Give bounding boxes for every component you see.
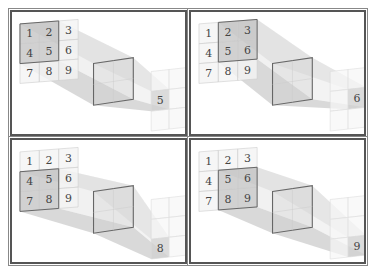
input-cell-value: 7 [26,195,33,208]
input-cell-value: 8 [46,65,53,78]
input-grid: 123456789 [20,19,78,83]
convolution-figure: 1234567898 [12,140,185,262]
output-cell-value: 6 [354,92,361,105]
input-cell-value: 7 [26,67,33,80]
input-cell-value: 2 [225,26,232,39]
input-cell-value: 8 [225,65,232,78]
input-cell-value: 9 [65,192,72,205]
input-cell-value: 5 [46,45,53,58]
panel-top-right: 1234567896 [189,10,366,136]
input-cell-value: 1 [205,27,212,40]
convolution-figure: 1234567899 [191,140,364,262]
output-cell-value: 5 [157,94,164,107]
input-cell-value: 6 [65,44,72,57]
input-cell-value: 3 [65,152,72,165]
output-grid: 6 [330,68,364,131]
input-cell-value: 2 [225,154,232,167]
diagram-grid: 1234567895 1234567896 1234567898 1234567… [10,10,366,264]
input-cell-value: 1 [26,155,33,168]
input-cell-value: 3 [244,24,251,37]
input-cell-value: 3 [244,152,251,165]
input-grid: 123456789 [199,19,257,83]
input-cell-value: 9 [65,64,72,77]
input-grid: 123456789 [199,147,257,211]
input-cell-value: 4 [26,47,33,60]
input-cell-value: 1 [26,27,33,40]
panel-top-left: 1234567895 [10,10,187,136]
input-cell-value: 7 [205,195,212,208]
output-grid: 8 [151,196,185,259]
input-cell-value: 1 [205,155,212,168]
output-grid: 5 [151,68,185,131]
input-cell-value: 9 [244,64,251,77]
panel-bottom-left: 1234567898 [10,138,187,264]
input-cell-value: 3 [65,24,72,37]
input-cell-value: 5 [46,173,53,186]
input-cell-value: 4 [205,175,212,188]
output-grid: 9 [330,196,364,259]
input-cell-value: 2 [46,154,53,167]
input-cell-value: 9 [244,192,251,205]
output-cell-value: 8 [157,242,164,255]
output-cell-value: 9 [354,240,361,253]
input-cell-value: 4 [205,47,212,60]
input-grid: 123456789 [20,147,78,211]
input-cell-value: 4 [26,175,33,188]
input-cell-value: 5 [225,45,232,58]
input-cell-value: 8 [225,193,232,206]
input-cell-value: 2 [46,26,53,39]
convolution-figure: 1234567896 [191,12,364,134]
input-cell-value: 6 [244,172,251,185]
input-cell-value: 8 [46,193,53,206]
input-cell-value: 6 [65,172,72,185]
input-cell-value: 7 [205,67,212,80]
input-cell-value: 5 [225,173,232,186]
panel-bottom-right: 1234567899 [189,138,366,264]
input-cell-value: 6 [244,44,251,57]
convolution-figure: 1234567895 [12,12,185,134]
